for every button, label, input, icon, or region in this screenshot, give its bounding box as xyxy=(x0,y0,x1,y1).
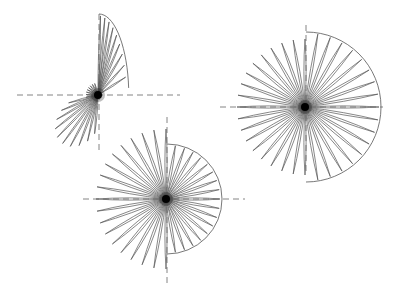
squashed-arc xyxy=(99,14,129,88)
petal xyxy=(305,107,318,180)
petal xyxy=(238,107,305,119)
petal xyxy=(97,187,166,199)
petal xyxy=(305,107,378,120)
fan-figure-large xyxy=(220,25,383,182)
petal xyxy=(305,34,318,107)
petal xyxy=(305,94,378,107)
fan-figure-medium xyxy=(83,117,245,285)
fan-diagram xyxy=(0,0,393,296)
petal xyxy=(293,40,305,107)
petal xyxy=(97,199,166,211)
petal xyxy=(238,95,305,107)
petal xyxy=(154,199,166,268)
fan-figure-small xyxy=(17,14,180,152)
petal xyxy=(154,130,166,199)
petal xyxy=(293,107,305,174)
